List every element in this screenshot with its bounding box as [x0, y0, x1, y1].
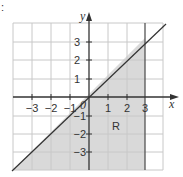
- y-axis-label: y: [79, 9, 86, 23]
- x-tick-label: 3: [142, 102, 148, 114]
- x-axis-label: x: [168, 97, 175, 111]
- x-tick-label: 1: [105, 102, 111, 114]
- y-tick-label: 1: [74, 73, 80, 85]
- coordinate-grid-diagram: :: [0, 0, 183, 177]
- corner-mark: :: [1, 1, 4, 13]
- y-tick-label: −2: [73, 128, 86, 140]
- region-label-r: R: [112, 120, 120, 132]
- x-tick-label: −3: [26, 102, 39, 114]
- x-tick-label: −2: [45, 102, 58, 114]
- y-tick-label: −1: [73, 110, 86, 122]
- y-axis-arrow-icon: [86, 12, 92, 21]
- y-tick-label: −3: [73, 146, 86, 158]
- x-tick-label: 2: [124, 102, 130, 114]
- y-tick-label: 2: [74, 54, 80, 66]
- y-tick-label: 3: [74, 36, 80, 48]
